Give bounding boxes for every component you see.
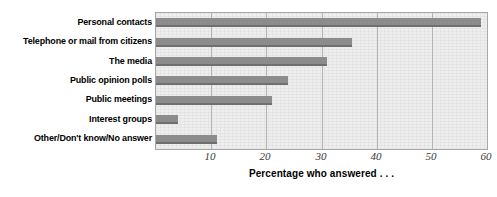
- gridline-40: [377, 13, 378, 149]
- category-label-4: Public meetings: [9, 94, 152, 104]
- category-label-1: Telephone or mail from citizens: [9, 36, 152, 46]
- bar-row: [156, 115, 178, 124]
- x-tick-label-60: 60: [481, 150, 492, 162]
- bar-shadow-1: [156, 45, 352, 47]
- category-label-3: Public opinion polls: [9, 75, 152, 85]
- bar-shadow-2: [156, 64, 327, 66]
- gridline-50: [432, 13, 433, 149]
- x-tick-label-30: 30: [316, 150, 327, 162]
- bar-0: [156, 18, 481, 25]
- x-axis-title: Percentage who answered . . .: [155, 168, 488, 179]
- gridline-30: [322, 13, 323, 149]
- bar-5: [156, 115, 178, 122]
- category-label-5: Interest groups: [9, 114, 152, 124]
- bar-chart-figure: Personal contacts Telephone or mail from…: [0, 0, 497, 197]
- bar-2: [156, 57, 327, 64]
- bar-3: [156, 76, 288, 83]
- category-label-0: Personal contacts: [9, 17, 152, 27]
- bar-shadow-5: [156, 122, 178, 124]
- bar-row: [156, 57, 327, 66]
- category-axis: Personal contacts Telephone or mail from…: [0, 12, 152, 148]
- bar-6: [156, 135, 217, 142]
- bar-row: [156, 96, 272, 105]
- bar-row: [156, 76, 288, 85]
- bar-1: [156, 38, 352, 45]
- x-tick-label-40: 40: [371, 150, 382, 162]
- bar-shadow-4: [156, 103, 272, 105]
- category-label-6: Other/Don't know/No answer: [9, 133, 152, 143]
- bar-shadow-3: [156, 83, 288, 85]
- bar-shadow-6: [156, 142, 217, 144]
- bar-row: [156, 38, 352, 47]
- bar-row: [156, 135, 217, 144]
- x-tick-label-20: 20: [260, 150, 271, 162]
- bar-row: [156, 18, 481, 27]
- plot-area: [155, 12, 488, 150]
- bar-4: [156, 96, 272, 103]
- bar-shadow-0: [156, 25, 481, 27]
- value-axis: 10 20 30 40 50 60: [155, 150, 488, 166]
- category-label-2: The media: [9, 56, 152, 66]
- x-tick-label-10: 10: [205, 150, 216, 162]
- x-tick-label-50: 50: [426, 150, 437, 162]
